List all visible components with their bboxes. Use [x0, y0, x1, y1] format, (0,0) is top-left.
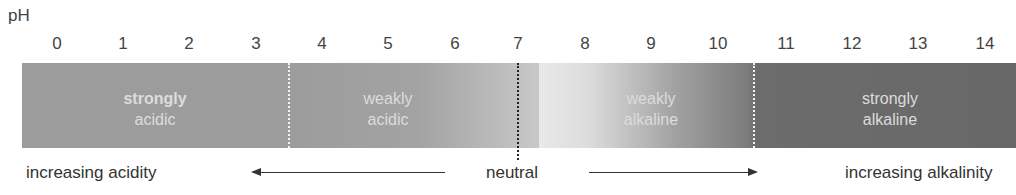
tick-3: 3	[251, 34, 260, 54]
tick-1: 1	[118, 34, 127, 54]
arrow-right-icon	[589, 172, 756, 173]
tick-9: 9	[646, 34, 655, 54]
divider-alkaline	[753, 63, 755, 148]
tick-6: 6	[450, 34, 459, 54]
segment-weakly-acidic: weakly acidic	[364, 88, 413, 130]
increasing-alkalinity-label: increasing alkalinity	[845, 163, 992, 183]
tick-14: 14	[976, 34, 995, 54]
tick-11: 11	[777, 34, 795, 54]
ph-axis-label: pH	[8, 6, 30, 26]
tick-2: 2	[184, 34, 193, 54]
arrow-left-icon	[253, 172, 445, 173]
neutral-marker-line	[517, 63, 519, 160]
tick-5: 5	[383, 34, 392, 54]
divider-acidic	[288, 63, 290, 148]
tick-0: 0	[52, 34, 61, 54]
segment-strongly-acidic: strongly acidic	[123, 88, 186, 130]
tick-13: 13	[909, 34, 928, 54]
tick-12: 12	[843, 34, 862, 54]
tick-7: 7	[513, 34, 522, 54]
tick-10: 10	[709, 34, 728, 54]
segment-weakly-alkaline: weakly alkaline	[624, 88, 678, 130]
tick-8: 8	[580, 34, 589, 54]
neutral-label: neutral	[486, 163, 538, 183]
tick-4: 4	[317, 34, 326, 54]
segment-strongly-alkaline: strongly alkaline	[862, 88, 918, 130]
increasing-acidity-label: increasing acidity	[26, 163, 156, 183]
